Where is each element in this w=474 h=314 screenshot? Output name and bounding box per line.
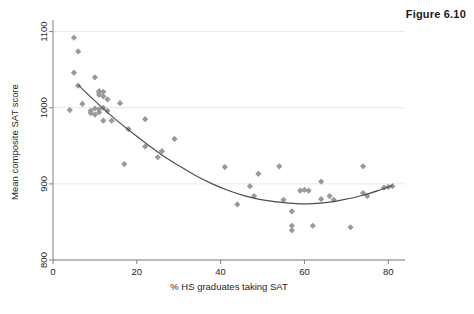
data-point-marker — [121, 161, 127, 167]
x-tick-label: 20 — [132, 266, 143, 277]
data-point-marker — [289, 227, 295, 233]
data-point-marker — [310, 223, 316, 229]
fit-curve-path — [78, 85, 392, 204]
data-point-marker — [71, 35, 77, 41]
data-point-marker — [71, 70, 77, 76]
data-point-marker — [155, 154, 161, 160]
data-point-marker — [234, 201, 240, 207]
x-axis-ticks: 020406080 — [50, 260, 393, 277]
data-point-marker — [306, 188, 312, 194]
data-point-marker — [255, 171, 261, 177]
gridlines — [53, 32, 405, 260]
figure-root: Figure 6.10 020406080 80090010001100 % H… — [0, 0, 474, 314]
chart-svg: 020406080 80090010001100 % HS graduates … — [0, 4, 420, 304]
y-tick-label: 1100 — [38, 21, 49, 41]
y-axis-ticks: 80090010001100 — [38, 21, 53, 268]
data-point-marker — [142, 116, 148, 122]
data-point-marker — [276, 163, 282, 169]
data-point-marker — [100, 118, 106, 124]
x-tick-label: 0 — [50, 266, 55, 277]
scatter-chart: 020406080 80090010001100 % HS graduates … — [0, 4, 420, 304]
data-point-marker — [75, 48, 81, 54]
data-point-marker — [117, 100, 123, 106]
y-axis-title: Mean composite SAT score — [9, 84, 20, 200]
data-point-marker — [326, 193, 332, 199]
data-point-marker — [79, 101, 85, 107]
y-tick-label: 900 — [38, 176, 49, 192]
data-point-marker — [92, 74, 98, 80]
data-points — [67, 35, 396, 234]
data-point-marker — [289, 208, 295, 214]
x-axis-title: % HS graduates taking SAT — [170, 281, 288, 292]
x-tick-label: 40 — [215, 266, 226, 277]
data-point-marker — [318, 196, 324, 202]
y-tick-label: 800 — [38, 252, 49, 268]
fit-curve — [78, 85, 392, 204]
data-point-marker — [222, 164, 228, 170]
x-tick-label: 60 — [299, 266, 310, 277]
data-point-marker — [171, 136, 177, 142]
y-tick-label: 1000 — [38, 97, 49, 118]
data-point-marker — [360, 163, 366, 169]
data-point-marker — [347, 224, 353, 230]
x-tick-label: 80 — [383, 266, 394, 277]
axis-lines — [53, 20, 405, 260]
